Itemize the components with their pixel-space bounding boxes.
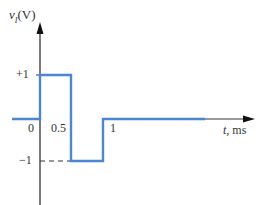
signal-line <box>12 75 205 161</box>
x-tick-1: 1 <box>110 121 116 136</box>
y-axis-arrow-icon <box>37 22 44 34</box>
x-tick-0: 0 <box>28 121 34 136</box>
y-axis-label: vI(V) <box>9 7 36 25</box>
x-axis-label: t, ms <box>223 123 246 138</box>
y-tick-minus1: −1 <box>19 153 32 168</box>
chart-canvas <box>0 0 266 205</box>
y-tick-plus1: +1 <box>16 67 29 82</box>
x-tick-0.5: 0.5 <box>51 121 66 136</box>
x-axis-arrow-icon <box>243 116 255 123</box>
